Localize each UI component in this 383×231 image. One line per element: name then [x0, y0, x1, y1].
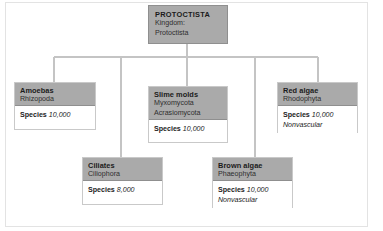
node-header-red-algae: Red algae Rhodophyta	[278, 83, 357, 106]
node-subtitle-protoctista-line2: Protoctista	[155, 29, 221, 38]
node-header-slime-molds: Slime molds Myxomycota Acrasiomycota	[149, 87, 227, 120]
stat-label-brown-algae: Species	[218, 186, 245, 194]
stat-value-red-algae: 10,000	[312, 111, 334, 119]
node-subtitle-slime-molds-line1: Myxomycota	[154, 99, 222, 108]
node-header-amoebas: Amoebas Rhizopoda	[15, 83, 95, 106]
node-subtitle-red-algae: Rhodophyta	[283, 95, 352, 104]
node-slime-molds[interactable]: Slime molds Myxomycota Acrasiomycota Spe…	[148, 86, 228, 143]
node-title-amoebas: Amoebas	[20, 86, 90, 95]
stat-row-slime-molds: Species 10,000	[154, 125, 222, 135]
node-header-brown-algae: Brown algae Phaeophyta	[213, 158, 292, 181]
node-subtitle-slime-molds-line2: Acrasiomycota	[154, 109, 222, 118]
node-title-ciliates: Ciliates	[88, 161, 157, 170]
protoctista-classification-diagram: PROTOCTISTA Kingdom: Protoctista Amoebas…	[0, 0, 383, 231]
node-subtitle-brown-algae: Phaeophyta	[218, 170, 287, 179]
stat-label-amoebas: Species	[20, 111, 47, 119]
stat-value-ciliates: 8,000	[117, 186, 135, 194]
node-subtitle-amoebas: Rhizopoda	[20, 95, 90, 104]
stat-value-amoebas: 10,000	[49, 111, 71, 119]
node-red-algae[interactable]: Red algae Rhodophyta Species 10,000 Nonv…	[277, 82, 358, 133]
node-body-red-algae: Species 10,000 Nonvascular	[278, 106, 357, 135]
node-body-ciliates: Species 8,000	[83, 181, 162, 201]
stat-label-slime-molds: Species	[154, 125, 181, 133]
stat-label-red-algae: Species	[283, 111, 310, 119]
node-body-slime-molds: Species 10,000	[149, 120, 227, 140]
stat-row-ciliates: Species 8,000	[88, 186, 157, 196]
stat-value-slime-molds: 10,000	[183, 125, 205, 133]
stat-row-brown-algae: Species 10,000	[218, 186, 287, 196]
stat-note-red-algae: Nonvascular	[283, 121, 352, 131]
node-header-ciliates: Ciliates Ciliophora	[83, 158, 162, 181]
node-ciliates[interactable]: Ciliates Ciliophora Species 8,000	[82, 157, 163, 205]
node-subtitle-protoctista-line1: Kingdom:	[155, 19, 221, 28]
stat-row-red-algae: Species 10,000	[283, 111, 352, 121]
node-title-protoctista: PROTOCTISTA	[155, 10, 221, 19]
stat-row-amoebas: Species 10,000	[20, 111, 90, 121]
node-body-brown-algae: Species 10,000 Nonvascular	[213, 181, 292, 210]
node-protoctista[interactable]: PROTOCTISTA Kingdom: Protoctista	[148, 5, 228, 44]
node-title-red-algae: Red algae	[283, 86, 352, 95]
node-brown-algae[interactable]: Brown algae Phaeophyta Species 10,000 No…	[212, 157, 293, 208]
stat-note-brown-algae: Nonvascular	[218, 196, 287, 206]
node-header-protoctista: PROTOCTISTA Kingdom: Protoctista	[149, 6, 227, 43]
stat-value-brown-algae: 10,000	[247, 186, 269, 194]
node-title-slime-molds: Slime molds	[154, 90, 222, 99]
node-subtitle-ciliates: Ciliophora	[88, 170, 157, 179]
node-amoebas[interactable]: Amoebas Rhizopoda Species 10,000	[14, 82, 96, 130]
node-title-brown-algae: Brown algae	[218, 161, 287, 170]
node-body-amoebas: Species 10,000	[15, 106, 95, 126]
stat-label-ciliates: Species	[88, 186, 115, 194]
